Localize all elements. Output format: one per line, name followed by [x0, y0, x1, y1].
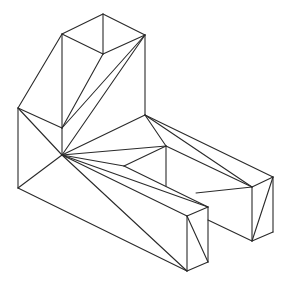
mesh-edge — [187, 216, 208, 262]
mesh-edge — [62, 54, 103, 128]
mesh-edge — [166, 146, 252, 187]
mesh-edge — [103, 14, 145, 35]
mesh-edge — [18, 155, 62, 188]
mesh-edge — [208, 220, 252, 241]
mesh-edge — [252, 177, 273, 241]
mesh-edge — [18, 108, 62, 128]
mesh-edge — [62, 34, 103, 54]
mesh-edge — [62, 155, 187, 216]
mesh-edge — [196, 187, 252, 193]
mesh-edge — [62, 14, 103, 34]
mesh-edge — [62, 155, 208, 207]
mesh-edge — [18, 34, 62, 108]
mesh-edge — [145, 115, 252, 187]
mesh-edge — [62, 155, 187, 271]
mesh-edge — [187, 262, 208, 271]
mesh-edge — [18, 188, 187, 271]
mesh-edge — [187, 207, 208, 216]
mesh-edge — [252, 232, 273, 241]
mesh-edge — [18, 108, 62, 155]
wireframe-diagram — [0, 0, 292, 283]
